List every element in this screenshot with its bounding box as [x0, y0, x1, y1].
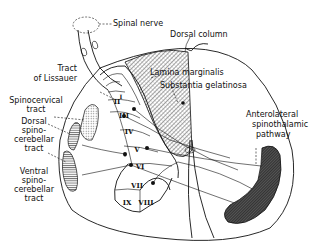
- label-anterolateral-line2: spinothalamic: [252, 120, 308, 129]
- label-ventral-spinocerebellar-line3: cerebellar: [14, 185, 55, 194]
- lamina-VIII: VIII: [137, 198, 153, 207]
- label-spinocervical-line2: tract: [27, 105, 46, 114]
- label-tract-of-lissauer-line2: of Lissauer: [34, 74, 78, 83]
- label-dorsal-spinocerebellar-line2: spino-: [22, 126, 47, 135]
- label-ventral-spinocerebellar-line1: Ventral: [20, 167, 48, 176]
- label-spinal-nerve: Spinal nerve: [113, 19, 163, 28]
- label-dorsal-spinocerebellar-line3: cerebellar: [14, 135, 55, 144]
- label-lamina-marginalis: Lamina marginalis: [150, 68, 224, 77]
- anterolateral-spinothalamic-pathway: [224, 146, 281, 223]
- ventral-spinocerebellar-tract: [62, 151, 77, 191]
- lamina-IV: IV: [125, 127, 134, 136]
- spinal-nerve-outline: [73, 17, 99, 33]
- label-substantia-gelatinosa: Substantia gelatinosa: [160, 81, 247, 90]
- label-ventral-spinocerebellar-line2: spino-: [22, 176, 47, 185]
- spinocervical-tract: [80, 104, 98, 140]
- substantia-gelatinosa-dot: [181, 101, 185, 105]
- lamina-V: V: [133, 145, 140, 154]
- lamina-I: I: [120, 93, 123, 100]
- ventral-median-fissure: [188, 140, 192, 238]
- spinal-cord-diagram: II I III IV V VI VII IX VIII: [0, 0, 320, 246]
- label-anterolateral-line3: pathway: [256, 130, 291, 139]
- label-ventral-spinocerebellar-line4: tract: [25, 194, 44, 203]
- lamina-IX: IX: [123, 198, 132, 207]
- dorsal-spinocerebellar-tract: [68, 122, 80, 150]
- label-dorsal-spinocerebellar-line1: Dorsal: [21, 117, 47, 126]
- label-dorsal-column: Dorsal column: [170, 30, 228, 39]
- label-spinocervical-line1: Spinocervical: [9, 96, 62, 105]
- lamina-VII: VII: [130, 181, 143, 190]
- label-dorsal-spinocerebellar-line4: tract: [25, 144, 44, 153]
- label-anterolateral-line1: Anterolateral: [246, 110, 298, 119]
- label-tract-of-lissauer-line1: Tract: [57, 64, 77, 73]
